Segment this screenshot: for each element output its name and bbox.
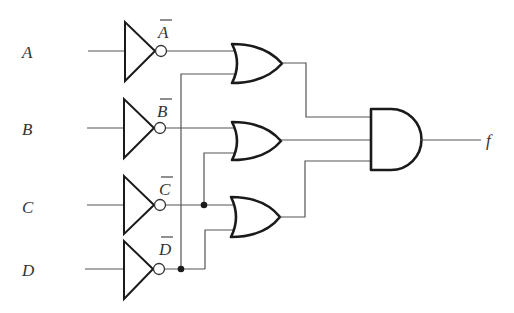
label-d-bar: D — [158, 237, 173, 259]
input-label-a: A — [21, 43, 33, 62]
inversion-bubble-icon — [155, 200, 166, 211]
wire-or3-to-and — [280, 161, 371, 217]
wire-d-bar-to-or3 — [205, 230, 234, 269]
logic-circuit-diagram: A B C D A B C D — [0, 0, 514, 313]
wire-or1-to-and — [282, 63, 371, 117]
or-gate-3 — [231, 197, 280, 237]
or-gate-2 — [232, 122, 281, 160]
label-a-bar: A — [157, 20, 172, 42]
label-b-bar: B — [157, 99, 172, 121]
svg-text:C: C — [159, 180, 171, 199]
svg-text:B: B — [157, 102, 168, 121]
input-label-b: B — [22, 120, 33, 139]
junction-dot-icon — [201, 202, 208, 209]
and-gate — [371, 109, 421, 170]
label-c-bar: C — [159, 177, 173, 199]
input-label-d: D — [21, 261, 35, 280]
output-label-f: f — [486, 131, 493, 150]
inversion-bubble-icon — [154, 264, 165, 275]
svg-text:D: D — [158, 240, 172, 259]
inversion-bubble-icon — [156, 46, 167, 57]
wire-d-bar-to-or1 — [181, 74, 235, 269]
or-gate-1 — [232, 44, 282, 83]
junction-dot-icon — [178, 266, 185, 273]
svg-text:A: A — [157, 23, 169, 42]
inversion-bubble-icon — [155, 123, 166, 134]
input-label-c: C — [22, 198, 34, 217]
